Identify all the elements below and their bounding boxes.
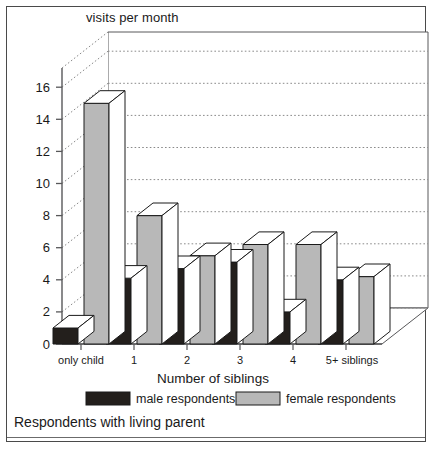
legend-label-male: male respondents [136,392,235,406]
y-tick-label: 14 [36,112,50,127]
x-axis-title: Number of siblings [157,371,269,386]
x-axis-ticks [81,344,346,350]
y-tick-label: 0 [43,337,50,352]
y-axis-ticks [56,87,62,344]
x-tick-label: 5+ siblings [326,354,379,366]
chart-figure: visits per month [0,0,434,449]
x-tick-label: 2 [184,354,190,366]
x-tick-label: 4 [290,354,296,366]
chart-legend: male respondents female respondents [86,392,396,406]
legend-label-female: female respondents [286,392,396,406]
caption-divider [7,437,425,438]
plot-3d-scene: 0 2 4 6 8 10 12 14 16 [36,32,428,386]
legend-swatch-female [236,392,280,405]
x-tick-label: 1 [131,354,137,366]
y-tick-label: 6 [43,240,50,255]
figure-caption: Respondents with living parent [14,414,205,430]
y-tick-label: 16 [36,80,50,95]
legend-item-female: female respondents [236,392,396,406]
y-axis-tick-labels: 0 2 4 6 8 10 12 14 16 [36,80,50,352]
legend-swatch-male [86,392,130,405]
x-tick-label: 3 [237,354,243,366]
y-tick-label: 2 [43,304,50,319]
y-tick-label: 4 [43,272,50,287]
y-tick-label: 12 [36,144,50,159]
y-tick-label: 8 [43,208,50,223]
bar-chart-plot: 0 2 4 6 8 10 12 14 16 [0,0,434,449]
x-tick-label: only child [58,354,104,366]
bar-female [84,91,125,344]
y-tick-label: 10 [36,176,50,191]
x-axis-tick-labels: only child 1 2 3 4 5+ siblings [58,354,379,366]
legend-item-male: male respondents [86,392,235,406]
